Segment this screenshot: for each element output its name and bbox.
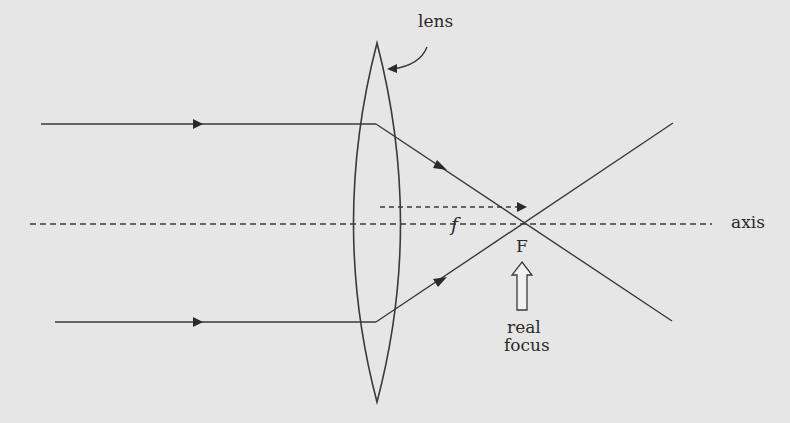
- lens-pointer-arrowhead-icon: [387, 64, 397, 73]
- focal-length-arrowhead-icon: [517, 202, 527, 212]
- lower-ray-arrowhead-icon: [193, 317, 203, 327]
- focal-length-label: f: [449, 213, 461, 235]
- real-focus-label-line2: focus: [504, 335, 550, 355]
- lens-pointer-arrow: [393, 47, 427, 69]
- lower-refracted-arrowhead-icon: [433, 277, 447, 287]
- axis-label: axis: [731, 212, 765, 232]
- lens-label: lens: [418, 11, 453, 31]
- real-focus-arrow-icon: [512, 262, 532, 310]
- upper-refracted-arrowhead-icon: [433, 160, 447, 170]
- convex-lens: [354, 43, 401, 402]
- upper-ray-arrowhead-icon: [193, 119, 203, 129]
- focal-point-label: F: [516, 236, 528, 256]
- real-focus-label-line1: real: [507, 317, 541, 337]
- lens-diagram: lens axis f F real focus: [0, 0, 790, 423]
